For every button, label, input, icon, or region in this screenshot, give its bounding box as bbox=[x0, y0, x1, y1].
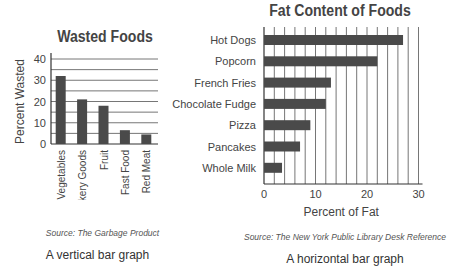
fat-content-caption: A horizontal bar graph bbox=[250, 252, 440, 266]
bar bbox=[264, 99, 326, 109]
x-axis-label: Percent of Fat bbox=[304, 205, 380, 219]
x-tick-label: 20 bbox=[361, 188, 373, 200]
y-tick-label: Pizza bbox=[229, 119, 257, 131]
wasted-foods-caption: A vertical bar graph bbox=[10, 248, 185, 262]
bar bbox=[264, 120, 310, 130]
fat-content-source: Source: The New York Public Library Desk… bbox=[230, 232, 460, 242]
bar bbox=[264, 78, 331, 88]
bar bbox=[264, 35, 403, 45]
bar bbox=[264, 56, 377, 66]
y-tick-label: Chocolate Fudge bbox=[172, 98, 256, 110]
x-tick-label: 0 bbox=[261, 188, 267, 200]
y-tick-label: Popcorn bbox=[215, 55, 256, 67]
x-tick-label: 10 bbox=[309, 188, 321, 200]
y-tick-label: French Fries bbox=[194, 77, 256, 89]
fat-content-chart: 0102030Percent of FatHot DogsPopcornFren… bbox=[0, 0, 464, 230]
y-tick-label: Hot Dogs bbox=[210, 34, 256, 46]
y-tick-label: Whole Milk bbox=[202, 162, 256, 174]
y-tick-label: Pancakes bbox=[208, 141, 257, 153]
x-tick-label: 30 bbox=[412, 188, 424, 200]
bar bbox=[264, 142, 300, 152]
bar bbox=[264, 163, 282, 173]
